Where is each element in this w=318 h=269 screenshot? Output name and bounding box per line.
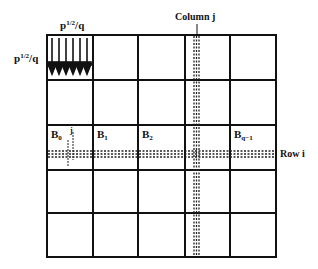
column-j-label: Column j [175, 12, 215, 22]
b0-j-marks [68, 132, 73, 167]
arrows-icon [48, 38, 91, 74]
block-grid-diagram [0, 0, 318, 269]
row-i-label: Row i [280, 149, 305, 159]
block-b1-label: B1 [97, 129, 108, 142]
block-bq-1-label: Bq−1 [234, 129, 253, 142]
block-width-label: p1/2/q [60, 20, 84, 31]
j-mark-label: j [70, 127, 73, 135]
label-sub: 1 [104, 134, 108, 142]
label-sup: 1/2 [20, 52, 29, 60]
row-i-band [48, 151, 275, 157]
label-tail: /q [29, 52, 38, 64]
label-tail: /q [75, 19, 84, 31]
block-b0-label: B0 [51, 129, 62, 142]
block-height-label: p1/2/q [14, 53, 38, 64]
label-sub: q−1 [241, 134, 252, 142]
label-sup: 1/2 [66, 19, 75, 27]
label-sub: 0 [58, 134, 62, 142]
column-j-band [194, 36, 199, 256]
label-sub: 2 [149, 134, 153, 142]
block-b2-label: B2 [142, 129, 153, 142]
